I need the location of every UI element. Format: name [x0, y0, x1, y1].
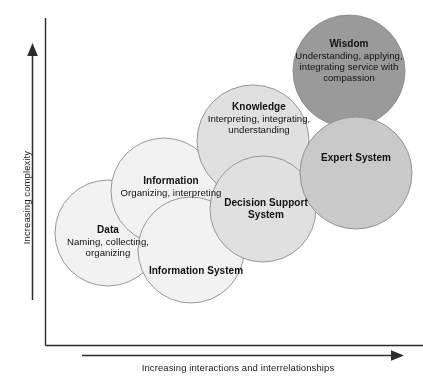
dikw-diagram-canvas: Data Naming, collecting, organizing Info…: [0, 0, 423, 382]
circle-expert-system: [300, 117, 412, 229]
right-arrow-icon: [82, 350, 404, 361]
y-axis-label: Increasing complexity: [21, 128, 32, 268]
x-axis-label: Increasing interactions and interrelatio…: [88, 362, 388, 373]
diagram-graphics: [0, 0, 423, 382]
circle-group: [55, 15, 412, 303]
circle-wisdom: [293, 15, 405, 127]
